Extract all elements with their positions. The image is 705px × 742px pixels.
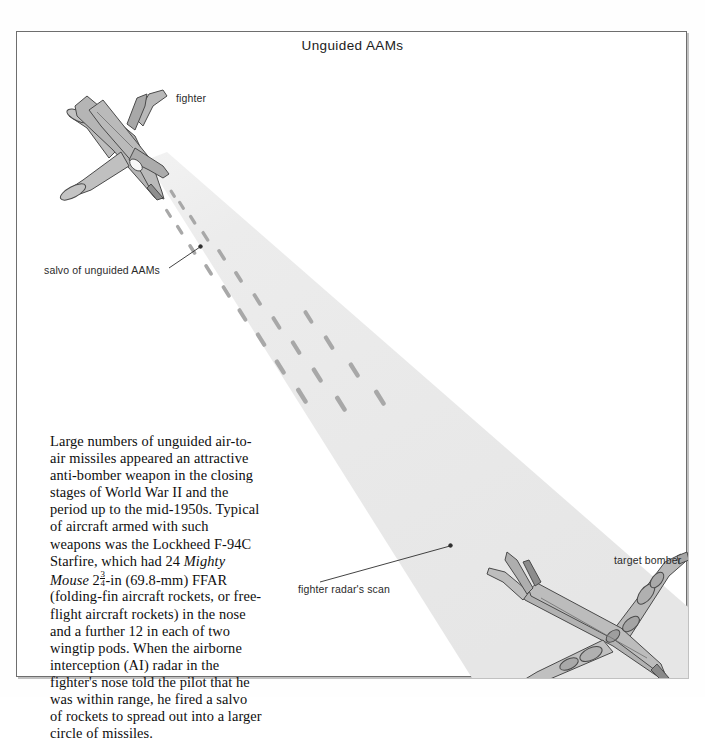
radar-leader-dot xyxy=(449,544,453,548)
caption-fraction-whole: 2 xyxy=(93,571,100,587)
caption-segment-1: Large numbers of unguided air-to-air mis… xyxy=(50,433,259,569)
label-fighter-radar-scan: fighter radar's scan xyxy=(298,583,390,595)
salvo-leader-dot xyxy=(199,245,203,249)
label-target-bomber: target bomber xyxy=(614,554,681,566)
label-fighter: fighter xyxy=(176,92,206,104)
fighter-aircraft xyxy=(58,90,169,203)
caption-segment-2: -in (69.8-mm) FFAR (folding-fin aircraft… xyxy=(50,571,262,741)
caption-body-text: Large numbers of unguided air-to-air mis… xyxy=(50,433,263,742)
label-salvo-of-unguided-aams: salvo of unguided AAMs xyxy=(44,264,160,276)
illustration-plate: Unguided AAMs xyxy=(16,31,687,677)
salvo-leader-line xyxy=(169,247,200,268)
